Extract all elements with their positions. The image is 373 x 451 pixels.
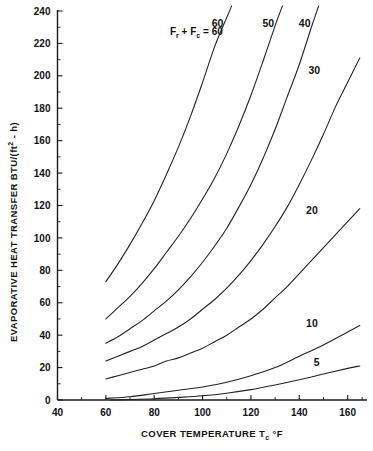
parameter-annotation: Fr + Fc = 60 <box>170 26 223 39</box>
curve-label-30: 30 <box>308 64 320 76</box>
x-tick-label: 100 <box>194 407 211 418</box>
evaporative-heat-transfer-chart: 0204060801001201401601802002202404060801… <box>0 0 373 451</box>
y-tick-label: 20 <box>39 362 51 373</box>
parameter-annotation-text: Fr + Fc = 60 <box>170 26 223 39</box>
curve-label-5: 5 <box>314 356 320 368</box>
x-tick-label: 60 <box>100 407 112 418</box>
x-tick-label: 80 <box>149 407 161 418</box>
curve-10 <box>106 325 360 398</box>
y-tick-label: 200 <box>34 70 51 81</box>
chart-canvas: 0204060801001201401601802002202404060801… <box>0 0 373 451</box>
y-axis-title: EVAPORATIVE HEAT TRANSFER BTU/(ft2 - h) <box>7 122 19 342</box>
curve-30 <box>106 58 360 361</box>
curve-label-10: 10 <box>306 317 318 329</box>
y-tick-label: 220 <box>34 38 51 49</box>
y-tick-label: 140 <box>34 168 51 179</box>
x-tick-label: 120 <box>243 407 260 418</box>
curve-label-40: 40 <box>299 17 311 29</box>
curve-60 <box>106 6 232 282</box>
curve-40 <box>106 6 319 343</box>
x-tick-label: 140 <box>291 407 308 418</box>
y-tick-label: 100 <box>34 233 51 244</box>
x-tick-label: 160 <box>339 407 356 418</box>
curve-label-50: 50 <box>263 17 275 29</box>
x-axis-title: COVER TEMPERATURE Tc °F <box>141 428 283 441</box>
y-tick-label: 0 <box>45 395 51 406</box>
y-tick-label: 40 <box>39 330 51 341</box>
y-tick-label: 160 <box>34 135 51 146</box>
y-tick-label: 80 <box>39 265 51 276</box>
x-tick-label: 40 <box>52 407 64 418</box>
y-tick-label: 60 <box>39 297 51 308</box>
y-tick-label: 120 <box>34 200 51 211</box>
y-tick-label: 180 <box>34 103 51 114</box>
curve-label-20: 20 <box>306 204 318 216</box>
y-tick-label: 240 <box>34 6 51 17</box>
curve-20 <box>106 209 360 379</box>
